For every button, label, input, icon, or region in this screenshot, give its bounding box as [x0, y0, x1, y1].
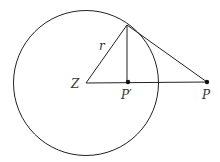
tangent-diagram: r Z P′ P	[0, 0, 220, 162]
point-p	[205, 80, 209, 84]
radius-line	[86, 25, 127, 83]
label-r: r	[99, 39, 106, 53]
point-p-prime	[126, 80, 130, 84]
label-z: Z	[70, 77, 80, 91]
tangent-line	[127, 25, 207, 82]
label-p-prime: P′	[120, 88, 132, 102]
center-line	[86, 82, 207, 83]
label-p: P	[201, 88, 211, 102]
